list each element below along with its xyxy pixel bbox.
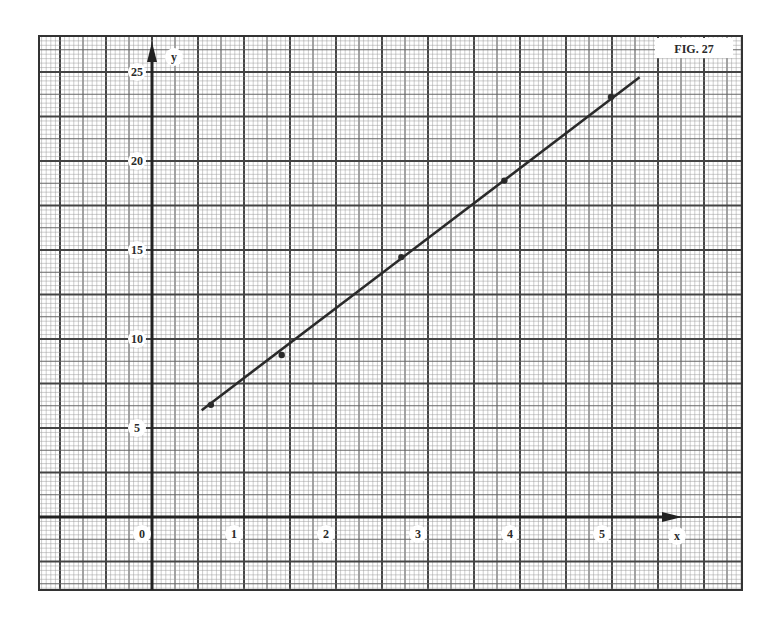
- y-tick-label: 10: [131, 332, 143, 346]
- x-tick-label: 5: [599, 527, 605, 541]
- x-tick-label: 3: [415, 527, 421, 541]
- graph-paper-grid: [39, 36, 742, 590]
- data-point: [608, 94, 614, 100]
- axes: [39, 42, 682, 590]
- y-tick-label: 5: [134, 421, 140, 435]
- y-axis-label: y: [171, 50, 177, 64]
- x-axis-label: x: [674, 529, 680, 543]
- x-tick-label: 1: [231, 527, 237, 541]
- figure-label-text: FIG. 27: [674, 42, 713, 56]
- y-tick-label: 15: [131, 243, 143, 257]
- chart: yx012345510152025 FIG. 27: [0, 0, 782, 624]
- chart-frame: [39, 36, 742, 590]
- figure-label: FIG. 27: [655, 38, 733, 58]
- data-point: [208, 402, 214, 408]
- data-point: [398, 254, 404, 260]
- x-tick-label: 0: [139, 527, 145, 541]
- y-tick-label: 25: [131, 65, 143, 79]
- data-point: [279, 352, 285, 358]
- data-point: [501, 177, 507, 183]
- x-tick-label: 4: [507, 527, 513, 541]
- y-tick-label: 20: [131, 154, 143, 168]
- x-tick-label: 2: [323, 527, 329, 541]
